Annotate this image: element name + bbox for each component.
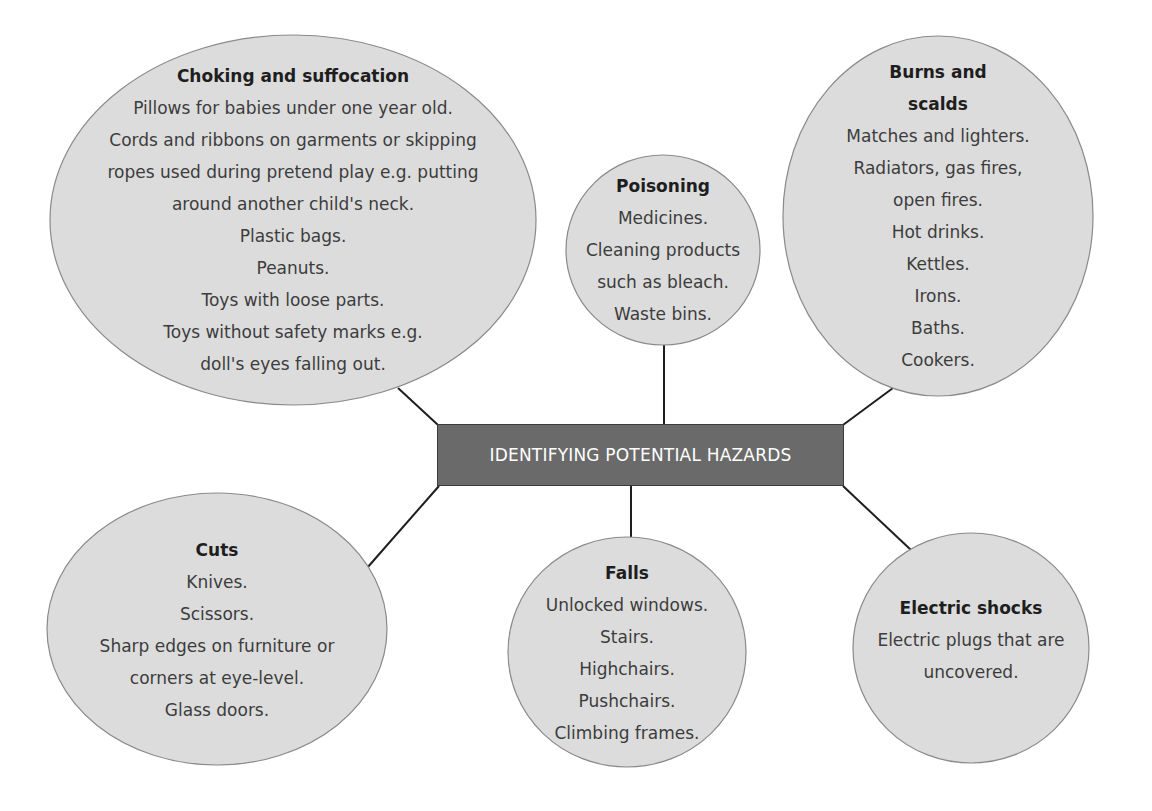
hazard-item: Plastic bags. — [240, 220, 347, 252]
hazard-bubble-poisoning: Poisoning Medicines. Cleaning products s… — [570, 170, 756, 330]
hazard-bubble-cuts: Cuts Knives. Scissors. Sharp edges on fu… — [60, 530, 374, 730]
hazard-bubble-falls: Falls Unlocked windows. Stairs. Highchai… — [512, 555, 742, 751]
hazard-item: Electric plugs that are — [877, 624, 1064, 656]
hazard-item: corners at eye-level. — [130, 662, 304, 694]
connector-burns — [843, 388, 893, 425]
connector-cuts — [367, 486, 439, 568]
hazard-item: Stairs. — [600, 621, 654, 653]
hazard-item: Cleaning products — [586, 234, 740, 266]
hazard-item: uncovered. — [923, 656, 1018, 688]
connector-choking — [398, 388, 438, 425]
hazard-item: Baths. — [911, 312, 965, 344]
hazard-item: Knives. — [186, 566, 247, 598]
hazard-title: Cuts — [196, 534, 239, 566]
hazard-item: Peanuts. — [257, 252, 330, 284]
hazard-item: around another child's neck. — [172, 188, 414, 220]
hazard-item: Cookers. — [901, 344, 975, 376]
hazard-item: Hot drinks. — [892, 216, 985, 248]
hazard-item: Medicines. — [618, 202, 708, 234]
hazard-item: Highchairs. — [579, 653, 675, 685]
hazard-item: Unlocked windows. — [546, 589, 708, 621]
hazard-item: Climbing frames. — [554, 717, 699, 749]
hazard-title: scalds — [908, 88, 968, 120]
hazard-bubble-choking: Choking and suffocation Pillows for babi… — [60, 50, 526, 390]
hazard-item: such as bleach. — [597, 266, 729, 298]
hazard-item: Pillows for babies under one year old. — [133, 92, 453, 124]
connector-electric — [843, 486, 911, 550]
hazard-item: Irons. — [914, 280, 961, 312]
hazard-bubble-burns: Burns and scalds Matches and lighters. R… — [795, 40, 1081, 392]
hazard-item: Sharp edges on furniture or — [100, 630, 335, 662]
hazard-item: Matches and lighters. — [846, 120, 1029, 152]
hazard-item: Waste bins. — [614, 298, 712, 330]
hazard-item: ropes used during pretend play e.g. putt… — [107, 156, 478, 188]
hazard-item: Pushchairs. — [579, 685, 676, 717]
hazard-item: Glass doors. — [165, 694, 269, 726]
hazard-item: doll's eyes falling out. — [200, 348, 386, 380]
hazard-title: Poisoning — [616, 170, 710, 202]
central-topic-label: IDENTIFYING POTENTIAL HAZARDS — [490, 445, 792, 465]
hazard-item: Scissors. — [180, 598, 254, 630]
central-topic-box: IDENTIFYING POTENTIAL HAZARDS — [437, 424, 844, 486]
hazard-bubble-electric: Electric shocks Electric plugs that are … — [858, 590, 1084, 690]
hazard-item: open fires. — [893, 184, 983, 216]
hazard-item: Toys without safety marks e.g. — [163, 316, 423, 348]
hazard-item: Radiators, gas fires, — [853, 152, 1022, 184]
hazard-title: Burns and — [889, 56, 986, 88]
hazard-item: Cords and ribbons on garments or skippin… — [109, 124, 476, 156]
hazard-title: Falls — [605, 557, 649, 589]
hazard-item: Toys with loose parts. — [201, 284, 384, 316]
hazard-item: Kettles. — [906, 248, 970, 280]
hazard-title: Electric shocks — [900, 592, 1043, 624]
hazard-title: Choking and suffocation — [177, 60, 409, 92]
